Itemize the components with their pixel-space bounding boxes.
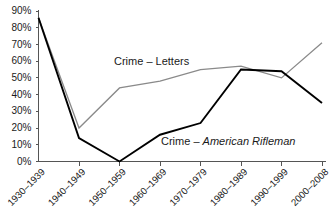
y-axis-tick-label: 50% <box>11 72 31 83</box>
x-axis-tick-label: 1990–1999 <box>248 166 290 208</box>
y-axis-tick-label: 80% <box>11 22 31 33</box>
y-axis-tick-labels: 0%10%20%30%40%50%60%70%80%90% <box>11 5 31 167</box>
line-chart: 0%10%20%30%40%50%60%70%80%90% 1930–19391… <box>0 0 334 217</box>
x-axis-tick-label: 1930–1939 <box>5 166 47 208</box>
y-axis-tick-label: 10% <box>11 139 31 150</box>
chart-canvas: 0%10%20%30%40%50%60%70%80%90% 1930–19391… <box>0 0 334 217</box>
y-axis-tick-label: 20% <box>11 122 31 133</box>
x-axis-tick-label: 2000–2008 <box>289 166 331 208</box>
y-axis-tick-label: 30% <box>11 105 31 116</box>
x-axis-tick-label: 1980–1989 <box>208 166 250 208</box>
x-axis-tick-label: 1940–1949 <box>46 166 88 208</box>
y-axis-tick-label: 70% <box>11 39 31 50</box>
x-axis-tick-label: 1960–1969 <box>127 166 169 208</box>
y-axis-tick-label: 0% <box>17 156 32 167</box>
american-rifleman-label: Crime – American Rifleman <box>161 135 295 147</box>
x-axis-tick-label: 1970–1979 <box>167 166 209 208</box>
y-axis-tick-label: 40% <box>11 89 31 100</box>
x-axis-tick-marks <box>79 162 322 166</box>
y-axis-tick-label: 90% <box>11 5 31 16</box>
y-axis-tick-label: 60% <box>11 55 31 66</box>
x-axis-tick-labels: 1930–19391940–19491950–19591960–19691970… <box>5 166 330 208</box>
series-line-letters <box>39 18 323 128</box>
letters-label: Crime – Letters <box>114 55 190 67</box>
x-axis-tick-label: 1950–1959 <box>86 166 128 208</box>
